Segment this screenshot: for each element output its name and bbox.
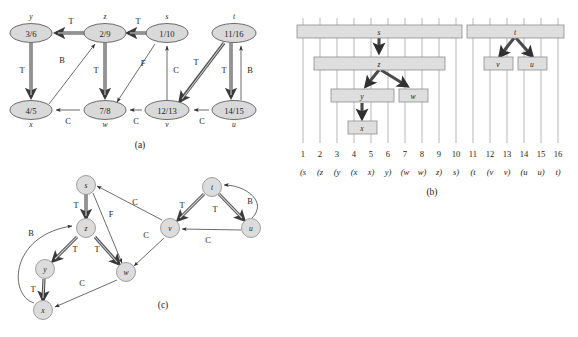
tick-1: 1 (301, 149, 305, 159)
node-u-name: u (232, 120, 236, 129)
edge-label-s-z: T (135, 17, 140, 26)
bar-x[interactable]: x (348, 121, 377, 134)
bar-y[interactable]: y (331, 89, 394, 102)
edge-c-label-w-x: C (79, 279, 85, 288)
node-x[interactable]: 4/5 x (10, 101, 52, 130)
node-v-name: v (165, 120, 169, 129)
edge-c-label-y-x: T (30, 285, 35, 294)
node-c-z[interactable]: z (77, 219, 96, 238)
paren-8: w) (418, 167, 427, 177)
tick-4: 4 (352, 149, 357, 159)
panel-c-svg: T T T T B F T T B C C C C s z y x w (0, 160, 300, 337)
edge-label-u-t: B (247, 66, 253, 75)
paren-16: t) (555, 167, 560, 177)
edge-label-u-v: C (199, 117, 205, 126)
bar-v[interactable]: v (484, 57, 513, 70)
edge-label-y-x: T (19, 66, 24, 75)
tick-16: 16 (554, 149, 563, 159)
edge-label-t-u: T (221, 66, 226, 75)
node-u[interactable]: 14/15 u (212, 101, 256, 130)
tick-12: 12 (486, 149, 495, 159)
edge-c-label-s-z: T (73, 201, 78, 210)
tick-11: 11 (469, 149, 477, 159)
node-s-name: s (166, 12, 169, 21)
tick-8: 8 (420, 149, 424, 159)
edge-c-label-z-w: T (94, 245, 99, 254)
paren-9: z) (435, 167, 442, 177)
edge-c-label-u-t: B (247, 197, 253, 206)
node-t-name: t (233, 12, 236, 21)
node-v[interactable]: 12/13 v (145, 101, 189, 130)
node-z[interactable]: 2/9 z (84, 12, 126, 43)
paren-14: (u (520, 167, 527, 177)
bar-s[interactable]: s (297, 25, 462, 38)
edge-label-t-v: T (193, 58, 198, 67)
caption-c: (c) (158, 300, 169, 311)
node-x-name: x (28, 120, 33, 129)
node-y-name: y (28, 12, 33, 21)
edge-c-y-x (43, 279, 44, 300)
tick-5: 5 (369, 149, 373, 159)
node-s-times: 1/10 (159, 29, 174, 39)
edge-c-label-z-y: T (72, 245, 77, 254)
node-w-name: w (102, 120, 108, 129)
bar-t[interactable]: t (467, 25, 564, 38)
paren-1: (s (300, 167, 307, 177)
bar-z-label: z (377, 60, 381, 69)
node-c-t[interactable]: t (203, 178, 222, 197)
edge-s-w (117, 44, 155, 102)
paren-4: (x (351, 167, 358, 177)
node-c-u[interactable]: u (242, 219, 261, 238)
node-w-times: 7/8 (100, 106, 111, 116)
panel-b: s z y x w t v u 1 (292, 0, 578, 200)
node-u-times: 14/15 (224, 106, 244, 116)
tick-2: 2 (318, 149, 322, 159)
paren-sequence: (s (z (y (x x) y) (w w) z) s) (t (v v) (… (300, 167, 561, 177)
node-y[interactable]: 3/6 y (10, 12, 52, 43)
edge-label-v-s: C (173, 66, 179, 75)
edge-label-s-w: F (141, 59, 146, 68)
bar-y-label: y (359, 92, 364, 101)
node-w[interactable]: 7/8 w (84, 101, 126, 130)
node-t[interactable]: 11/16 t (212, 12, 256, 43)
edge-t-v (180, 43, 224, 101)
edge-x-z (49, 44, 95, 104)
edge-c-label-t-v: T (179, 201, 184, 210)
b-arrow-z-w (381, 70, 407, 86)
tick-3: 3 (335, 149, 339, 159)
edge-c-label-x-z: B (28, 229, 34, 238)
node-c-x[interactable]: x (34, 301, 53, 320)
node-z-name: z (103, 12, 107, 21)
edge-c-label-v-s: C (132, 198, 138, 207)
paren-6: y) (384, 167, 392, 177)
bar-x-label: x (359, 124, 364, 133)
panel-a: T T T T B F C T T B C C C 3/6 y 2/9 z 1/… (0, 0, 290, 160)
node-c-s[interactable]: s (77, 176, 96, 195)
node-c-u-label: u (249, 224, 253, 233)
bar-w[interactable]: w (399, 89, 428, 102)
edge-label-x-z: B (59, 56, 65, 65)
edge-c-label-t-u: T (212, 205, 217, 214)
node-s[interactable]: 1/10 s (146, 12, 188, 43)
tick-7: 7 (403, 149, 408, 159)
edge-c-u-v (182, 229, 241, 230)
panel-a-svg: T T T T B F C T T B C C C 3/6 y 2/9 z 1/… (0, 0, 290, 160)
edge-c-label-s-w: F (109, 210, 114, 219)
edge-label-v-w: C (133, 117, 139, 126)
bar-z[interactable]: z (314, 57, 445, 70)
node-c-w[interactable]: w (117, 263, 136, 282)
paren-5: x) (367, 167, 375, 177)
bar-u[interactable]: u (518, 57, 547, 70)
node-c-s-label: s (85, 181, 88, 190)
node-c-y[interactable]: y (36, 260, 55, 279)
node-c-y-label: y (42, 265, 47, 274)
bar-u-label: u (530, 60, 534, 69)
bar-s-label: s (378, 28, 381, 37)
node-c-z-label: z (84, 224, 88, 233)
paren-15: u) (537, 167, 544, 177)
edge-c-label-v-w: C (143, 231, 149, 240)
paren-13: v) (504, 167, 511, 177)
node-v-times: 12/13 (157, 106, 177, 116)
node-c-v[interactable]: v (161, 219, 180, 238)
panel-c: T T T T B F T T B C C C C s z y x w (0, 160, 300, 337)
